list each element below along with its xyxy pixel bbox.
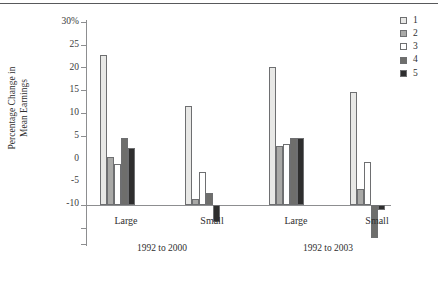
y-tick-label-0: 0: [45, 154, 79, 164]
legend: 1 2 3 4 5: [400, 14, 418, 80]
y-tick-label-10: 10: [45, 108, 79, 118]
legend-swatch-4-icon: [400, 57, 407, 64]
bar-small-series-1: [185, 106, 192, 205]
y-axis-title: Percentage Change in Mean Earnings: [6, 28, 30, 188]
bar-large-series-2: [107, 157, 114, 205]
bar-large-series-5: [297, 138, 304, 205]
bar-small-series-1: [350, 92, 357, 205]
bar-small-series-2: [192, 199, 199, 205]
legend-item-5[interactable]: 5: [400, 67, 418, 80]
x-category-label-1: Small: [172, 215, 252, 226]
legend-item-1[interactable]: 1: [400, 14, 418, 27]
y-tick-label-30: 30%: [45, 17, 79, 27]
bar-small-series-2: [357, 189, 364, 205]
top-divider: [0, 3, 438, 4]
legend-label-1: 1: [413, 16, 418, 26]
legend-label-5: 5: [413, 69, 418, 79]
bar-large-series-3: [283, 144, 290, 205]
legend-swatch-3-icon: [400, 43, 407, 50]
bar-large-series-3: [114, 164, 121, 205]
x-category-label-0: Large: [86, 215, 166, 226]
legend-label-4: 4: [413, 55, 418, 65]
x-period-label-0: 1992 to 2000: [92, 243, 232, 253]
bar-large-series-2: [276, 146, 283, 205]
legend-label-2: 2: [413, 29, 418, 39]
plot-area: [86, 20, 392, 246]
legend-item-2[interactable]: 2: [400, 27, 418, 40]
legend-item-4[interactable]: 4: [400, 54, 418, 67]
bar-small-series-3: [199, 172, 206, 205]
legend-swatch-1-icon: [400, 17, 407, 24]
legend-item-3[interactable]: 3: [400, 40, 418, 53]
y-axis-title-line1: Percentage Change in: [6, 28, 18, 188]
bar-large-series-4: [290, 138, 297, 205]
y-tick-label-15: 15: [45, 85, 79, 95]
bar-small-series-4: [206, 193, 213, 205]
x-category-label-2: Large: [256, 215, 336, 226]
y-tick-label-5: 5: [45, 131, 79, 141]
bar-group-large-1992-2000: [100, 20, 160, 246]
bar-large-series-1: [100, 55, 107, 205]
y-tick-label-neg5: -5: [45, 176, 79, 186]
y-tick-label-25: 25: [45, 40, 79, 50]
chart-figure: Percentage Change in Mean Earnings 30% 2…: [0, 0, 438, 282]
bar-large-series-1: [269, 67, 276, 205]
bar-large-series-5: [128, 148, 135, 205]
y-tick-label-20: 20: [45, 63, 79, 73]
y-tick-label-neg10: -10: [45, 199, 79, 209]
bar-group-small-1992-2000: [185, 20, 245, 246]
bar-large-series-4: [121, 138, 128, 205]
legend-swatch-5-icon: [400, 70, 407, 77]
y-axis-title-line2: Mean Earnings: [18, 28, 30, 188]
legend-label-3: 3: [413, 42, 418, 52]
bar-small-series-5: [378, 205, 385, 210]
bar-group-large-1992-2003: [269, 20, 329, 246]
legend-swatch-2-icon: [400, 30, 407, 37]
x-category-label-3: Small: [337, 215, 417, 226]
bar-small-series-3: [364, 162, 371, 205]
x-period-label-1: 1992 to 2003: [258, 243, 398, 253]
